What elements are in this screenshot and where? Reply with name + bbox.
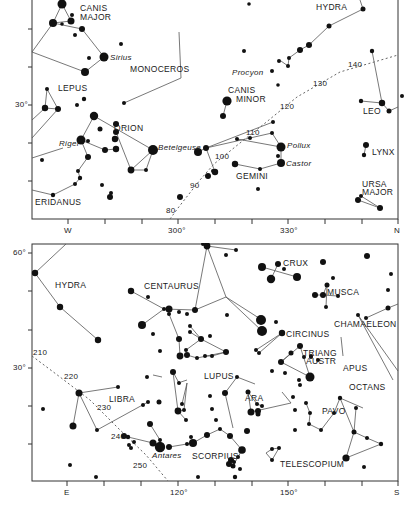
constellation-line bbox=[182, 383, 187, 404]
star bbox=[73, 182, 77, 186]
constellation-line bbox=[32, 109, 58, 138]
ecliptic-degree-label: 110 bbox=[246, 128, 260, 137]
star bbox=[359, 99, 363, 103]
star bbox=[270, 447, 274, 451]
constellation-line bbox=[346, 432, 354, 458]
star bbox=[70, 13, 74, 17]
star bbox=[270, 131, 274, 135]
star bbox=[362, 465, 366, 469]
constellation-line bbox=[32, 140, 88, 195]
star bbox=[258, 263, 266, 271]
star bbox=[82, 97, 86, 101]
star bbox=[203, 354, 207, 358]
star bbox=[112, 136, 118, 142]
star bbox=[195, 356, 199, 360]
star bbox=[220, 113, 226, 119]
star bbox=[49, 19, 57, 27]
constellation-line bbox=[262, 267, 297, 277]
star bbox=[279, 330, 285, 336]
star-name-label: Procyon bbox=[232, 68, 263, 77]
x-axis-label: 330° bbox=[280, 226, 298, 235]
ecliptic-degree-label: 230 bbox=[97, 403, 111, 412]
star-chart: W300°330°N30°CANISMAJORHYDRAMONOCEROSLEP… bbox=[0, 0, 418, 520]
star bbox=[277, 143, 286, 152]
star bbox=[287, 56, 291, 60]
star bbox=[184, 348, 188, 352]
star bbox=[122, 101, 126, 105]
star bbox=[81, 68, 89, 76]
star bbox=[98, 127, 103, 132]
ecliptic-line bbox=[32, 356, 168, 481]
constellation-line bbox=[153, 375, 162, 377]
star bbox=[100, 183, 104, 187]
star bbox=[148, 145, 158, 155]
star bbox=[68, 463, 72, 467]
star bbox=[192, 307, 198, 313]
star bbox=[227, 433, 233, 439]
constellation-line bbox=[259, 333, 282, 353]
star bbox=[224, 253, 228, 257]
star bbox=[293, 273, 301, 281]
star bbox=[218, 427, 222, 431]
star bbox=[214, 418, 218, 422]
star bbox=[306, 42, 312, 48]
star bbox=[231, 464, 236, 469]
ecliptic-degree-label: 250 bbox=[133, 461, 147, 470]
star bbox=[208, 394, 212, 398]
star bbox=[189, 435, 193, 439]
star bbox=[141, 403, 145, 407]
star bbox=[355, 197, 361, 203]
ecliptic-degree-label: 210 bbox=[33, 348, 47, 357]
star bbox=[185, 442, 189, 446]
constellation-line bbox=[226, 297, 262, 331]
star bbox=[177, 353, 184, 360]
star bbox=[377, 205, 383, 211]
star-name-label: Rigel bbox=[59, 139, 79, 148]
star bbox=[297, 47, 303, 53]
constellation-line bbox=[195, 246, 226, 310]
star bbox=[158, 349, 162, 353]
constellation-label: SCORPIUS bbox=[192, 452, 239, 461]
star-name-label: Antares bbox=[152, 451, 182, 460]
star bbox=[166, 444, 172, 450]
constellation-line bbox=[181, 380, 187, 382]
star bbox=[175, 408, 182, 415]
star bbox=[338, 396, 342, 400]
constellation-label: PAVO bbox=[322, 407, 346, 416]
constellation-label: CIRCINUS bbox=[286, 330, 330, 339]
star bbox=[254, 348, 258, 352]
star bbox=[386, 306, 391, 311]
star bbox=[158, 438, 162, 442]
star bbox=[364, 253, 370, 259]
star bbox=[386, 288, 390, 292]
y-axis-label: 30° bbox=[15, 100, 28, 109]
star bbox=[260, 404, 264, 408]
constellation-line bbox=[169, 429, 242, 450]
star bbox=[205, 173, 211, 179]
star bbox=[73, 33, 77, 37]
star bbox=[79, 26, 85, 32]
x-axis-label: W bbox=[64, 226, 72, 235]
star bbox=[320, 292, 326, 298]
constellation-line bbox=[32, 23, 53, 52]
star bbox=[208, 334, 212, 338]
star-name-label: Betelgeuse bbox=[158, 143, 201, 152]
star bbox=[95, 337, 101, 343]
star bbox=[304, 401, 308, 405]
star bbox=[170, 369, 176, 375]
star bbox=[100, 53, 109, 62]
constellation-line bbox=[341, 337, 343, 356]
constellation-line bbox=[131, 291, 226, 310]
star bbox=[312, 292, 318, 298]
star bbox=[256, 315, 266, 325]
star bbox=[58, 0, 67, 9]
y-axis-label: 60° bbox=[13, 248, 26, 257]
star bbox=[320, 259, 326, 265]
ecliptic-degree-label: 100 bbox=[215, 152, 229, 161]
constellation-label: MINOR bbox=[236, 95, 266, 104]
star bbox=[277, 59, 281, 63]
star bbox=[70, 423, 77, 430]
star bbox=[41, 407, 45, 411]
star bbox=[45, 87, 49, 91]
star bbox=[60, 22, 64, 26]
